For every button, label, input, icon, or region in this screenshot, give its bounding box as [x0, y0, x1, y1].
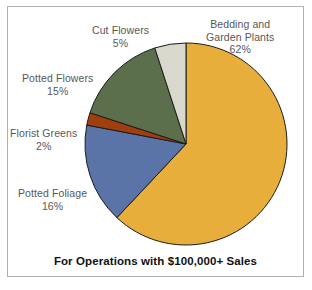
slice-value-potted-foliage: 16%	[18, 200, 87, 213]
figure-caption: For Operations with $100,000+ Sales	[7, 255, 304, 267]
slice-label-line1: Potted Flowers	[22, 72, 93, 84]
slice-label-line1: Bedding and	[210, 18, 270, 30]
slice-value-bedding-and-garden-plants: 62%	[206, 43, 274, 56]
slice-label-potted-foliage: Potted Foliage 16%	[18, 187, 87, 212]
slice-label-line2: Garden Plants	[206, 31, 274, 43]
slice-label-cut-flowers: Cut Flowers 5%	[92, 24, 149, 49]
slice-value-cut-flowers: 5%	[92, 37, 149, 50]
slice-label-line1: Cut Flowers	[92, 24, 149, 36]
slice-label-florist-greens: Florist Greens 2%	[10, 127, 77, 152]
pie-chart-figure: Bedding and Garden Plants 62% Cut Flower…	[0, 0, 312, 290]
slice-label-potted-flowers: Potted Flowers 15%	[22, 72, 93, 97]
pie-slice-group	[85, 43, 287, 245]
slice-value-potted-flowers: 15%	[22, 85, 93, 98]
slice-label-line1: Florist Greens	[10, 127, 77, 139]
slice-value-florist-greens: 2%	[10, 140, 77, 153]
slice-label-line1: Potted Foliage	[18, 187, 87, 199]
slice-label-bedding-and-garden-plants: Bedding and Garden Plants 62%	[206, 18, 274, 56]
